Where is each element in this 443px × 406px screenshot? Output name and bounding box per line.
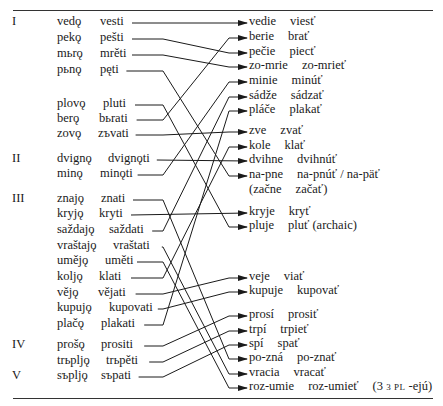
correspondence-lines xyxy=(0,0,443,406)
correspondence-arrow xyxy=(135,105,247,227)
correspondence-arrow xyxy=(137,38,247,120)
correspondence-arrow xyxy=(132,55,247,67)
correspondence-arrow xyxy=(132,39,247,53)
correspondence-arrow xyxy=(139,345,247,377)
correspondence-arrow xyxy=(149,331,247,362)
correspondence-arrow xyxy=(162,247,247,374)
correspondence-arrow xyxy=(152,97,247,231)
correspondence-arrow xyxy=(157,160,247,161)
bottom-rule xyxy=(13,398,433,399)
correspondence-arrow xyxy=(144,111,247,325)
correspondence-arrow xyxy=(131,147,247,278)
correspondence-arrow xyxy=(131,213,247,215)
